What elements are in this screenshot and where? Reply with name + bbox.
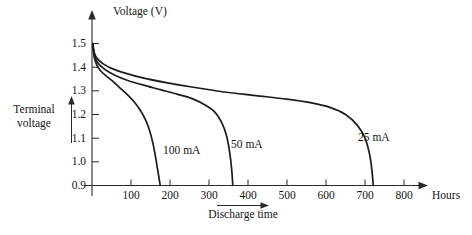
x-tick-label-100: 100 <box>114 189 148 202</box>
x-tick-label-200: 200 <box>153 189 187 202</box>
x-tick-label-400: 400 <box>231 189 265 202</box>
y-tick-label-1-5: 1.5 <box>60 37 86 50</box>
series-label-25ma: 25 mA <box>358 131 390 144</box>
discharge-curve-50ma <box>93 44 233 186</box>
x-axis-units-label: Hours <box>432 189 460 202</box>
y-tick-label-1-4: 1.4 <box>60 61 86 74</box>
x-tick-label-300: 300 <box>192 189 226 202</box>
terminal-voltage-label-line2: voltage <box>2 117 66 130</box>
y-tick-label-1-1: 1.1 <box>60 132 86 145</box>
y-axis-title: Voltage (V) <box>113 5 167 18</box>
discharge-curve-100ma <box>93 44 160 186</box>
y-axis <box>88 10 96 196</box>
battery-discharge-chart-figure: Voltage (V) 1.5 1.4 1.3 1.2 1.1 1.0 0.9 … <box>0 0 472 235</box>
y-tick-label-1-0: 1.0 <box>60 155 86 168</box>
x-tick-label-500: 500 <box>270 189 304 202</box>
x-tick-marks <box>131 180 404 186</box>
x-tick-label-600: 600 <box>309 189 343 202</box>
x-tick-label-700: 700 <box>348 189 382 202</box>
discharge-time-label: Discharge time <box>198 208 288 221</box>
terminal-voltage-label-line1: Terminal <box>2 103 66 116</box>
series-label-50ma: 50 mA <box>231 138 263 151</box>
y-tick-label-0-9: 0.9 <box>60 179 86 192</box>
x-tick-label-800: 800 <box>387 189 421 202</box>
series-label-100ma: 100 mA <box>163 144 200 157</box>
y-tick-label-1-3: 1.3 <box>60 84 86 97</box>
discharge-curve-25ma <box>93 44 373 186</box>
